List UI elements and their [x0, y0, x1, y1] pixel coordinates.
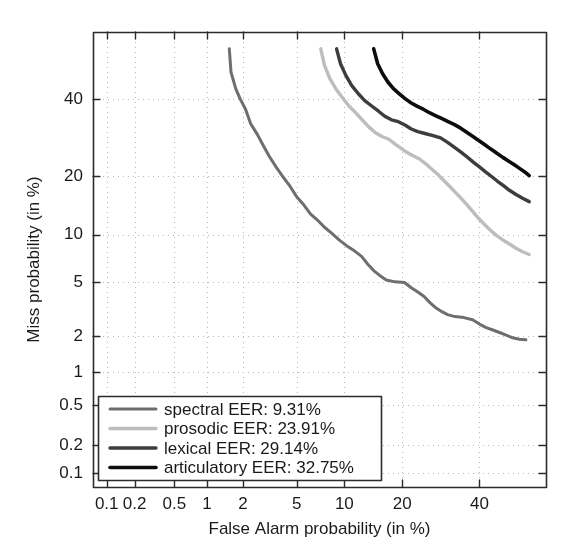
det-curve-canvas [0, 0, 576, 558]
det-plot-figure: False Alarm probability (in %) Miss prob… [0, 0, 576, 558]
